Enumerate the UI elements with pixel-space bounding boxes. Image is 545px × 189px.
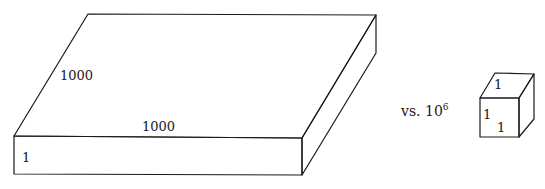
slab-height-label: 1 bbox=[22, 151, 30, 164]
slab-side-face bbox=[302, 15, 376, 175]
comparison-exponent: 6 bbox=[443, 102, 449, 112]
comparison-text: vs. 106 bbox=[401, 103, 449, 118]
slab-width-label: 1000 bbox=[142, 120, 175, 133]
cube-top-face bbox=[480, 73, 534, 98]
slab-front-face bbox=[14, 136, 302, 175]
slab-shape bbox=[14, 14, 376, 175]
cube-shape bbox=[480, 73, 534, 137]
cube-top-label: 1 bbox=[494, 78, 502, 91]
comparison-prefix: vs. 10 bbox=[401, 103, 443, 119]
cube-side-label: 1 bbox=[483, 108, 491, 121]
shapes-svg bbox=[0, 0, 545, 189]
diagram-canvas: 1000 1000 1 vs. 106 1 1 1 bbox=[0, 0, 545, 189]
slab-depth-label: 1000 bbox=[60, 69, 93, 82]
cube-front-label: 1 bbox=[497, 121, 505, 134]
cube-side-face bbox=[519, 74, 534, 137]
